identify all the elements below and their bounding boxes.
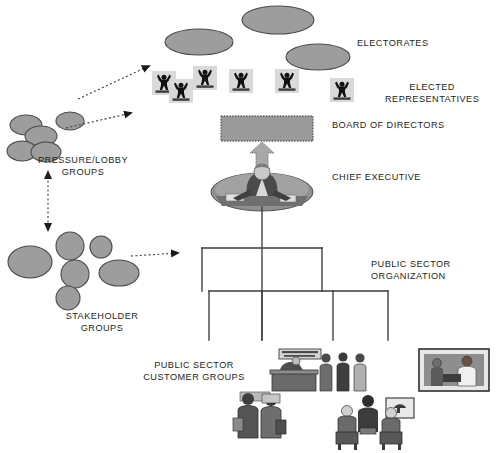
representative-figure-icon [193,66,217,90]
pressure-lobby-node [56,112,84,130]
queue-customer [354,353,366,391]
customers-with-bags-illustration [233,392,286,438]
electorate-ellipse [165,29,233,55]
label-electorates: ELECTORATES [357,38,429,50]
interview-photo-illustration [419,349,489,391]
stakeholder-node [56,286,80,310]
diagram-graphics [0,0,499,453]
electorate-ellipse [286,44,350,70]
label-public-sector-organization: PUBLIC SECTOR ORGANIZATION [371,259,451,282]
arrow-stakeholder-to-organization [131,253,178,256]
stakeholder-node [61,260,89,288]
representative-figure-icon [275,69,299,93]
meeting-group-illustration [336,395,414,450]
chief-executive-illustration [211,164,313,211]
label-chief-executive: CHIEF EXECUTIVE [332,172,421,184]
diagram-canvas: ELECTORATES ELECTED REPRESENTATIVES BOAR… [0,0,499,453]
board-of-directors-box [221,116,313,141]
representative-figure-icon [330,78,354,102]
label-pressure-lobby-groups: PRESSURE/LOBBY GROUPS [22,155,144,178]
label-stakeholder-groups: STAKEHOLDER GROUPS [48,311,156,334]
queue-customer [320,353,332,391]
representative-figure-icon [229,69,253,93]
stakeholder-group-nodes [8,232,139,310]
queue-customer [337,352,349,391]
elected-representative-figures [152,66,354,103]
electorate-ellipse [242,6,314,34]
stakeholder-node [90,236,112,258]
org-tree-connectors [202,207,388,340]
stakeholder-node [99,260,139,286]
label-public-sector-customer-groups: PUBLIC SECTOR CUSTOMER GROUPS [133,360,255,383]
stakeholder-node [56,232,84,260]
label-board-of-directors: BOARD OF DIRECTORS [332,120,445,132]
electorate-group [165,6,350,70]
arrow-lobby-to-representatives [78,66,149,99]
label-elected-representatives: ELECTED REPRESENTATIVES [385,82,479,105]
stakeholder-node [8,246,52,278]
representative-figure-icon [169,79,193,103]
customer-service-counter-illustration [270,349,366,391]
